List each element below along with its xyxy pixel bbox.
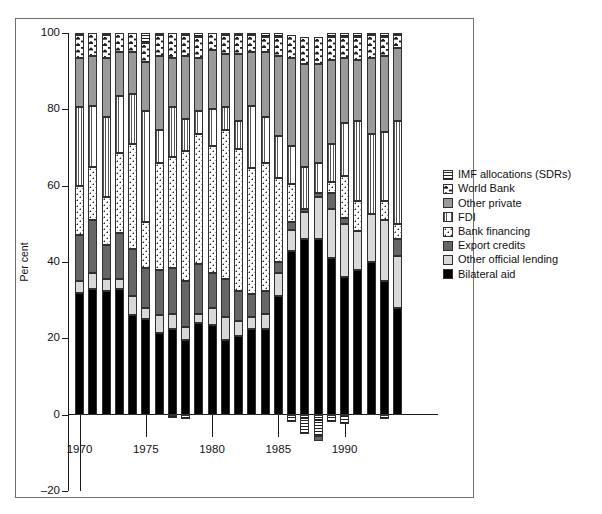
bar-segment-fdi xyxy=(141,111,150,222)
y-axis-tick xyxy=(62,109,68,110)
bar-1971 xyxy=(88,33,97,491)
bar-segment-bilateral xyxy=(221,340,230,414)
bar-segment-bilateral xyxy=(168,329,177,415)
bar-segment-export_credits xyxy=(287,222,296,230)
bar-segment-other_official xyxy=(208,308,217,325)
bar-segment-other_private xyxy=(327,60,336,144)
bar-segment-world_bank xyxy=(340,37,349,58)
bar-segment-bank_financing xyxy=(353,201,362,232)
legend-swatch-icon xyxy=(443,170,453,180)
bar-segment-bank_financing xyxy=(128,144,137,249)
bar-segment-bilateral xyxy=(314,239,323,415)
legend-item-label: Other official lending xyxy=(458,254,558,265)
bar-segment-imf xyxy=(102,33,111,35)
bar-segment-fdi xyxy=(168,107,177,157)
bar-segment-bilateral xyxy=(155,333,164,415)
bar-segment-export_credits xyxy=(234,291,243,322)
bar-segment-bilateral xyxy=(300,239,309,415)
bar-segment-imf xyxy=(274,33,283,37)
bar-segment-other_official xyxy=(367,214,376,262)
bar-segment-world_bank xyxy=(141,43,150,62)
bar-segment-imf xyxy=(221,33,230,35)
bar-segment-imf xyxy=(181,33,190,35)
legend-item: IMF allocations (SDRs) xyxy=(443,168,595,182)
bar-segment-export_credits xyxy=(115,233,124,279)
legend-swatch-icon xyxy=(443,212,453,222)
bar-segment-bank_financing xyxy=(102,197,111,245)
bar-segment-other_private xyxy=(340,58,349,123)
bar-segment-other_official xyxy=(141,308,150,319)
bar-segment-fdi xyxy=(261,117,270,163)
bar-segment-bank_financing xyxy=(340,176,349,218)
bar-segment-other_private xyxy=(102,58,111,117)
bar-1973 xyxy=(115,33,124,491)
bar-segment-other_official xyxy=(234,321,243,336)
bar-segment-world_bank xyxy=(327,37,336,60)
bar-segment-fdi xyxy=(367,134,376,214)
bar-segment-other_official xyxy=(314,197,323,239)
bar-segment-other_private xyxy=(128,52,137,94)
bar-1974 xyxy=(128,33,137,491)
bar-segment-fdi xyxy=(327,144,336,182)
bar-segment-export_credits xyxy=(314,193,323,197)
bar-segment-imf xyxy=(234,33,243,35)
bar-segment-bilateral xyxy=(181,340,190,414)
bar-segment-export_credits xyxy=(274,262,283,273)
bar-segment-other_private xyxy=(88,56,97,106)
bar-segment-imf_negative xyxy=(340,415,349,425)
bar-segment-fdi xyxy=(88,106,97,167)
bar-segment-imf_negative xyxy=(181,415,190,420)
bar-segment-world_bank xyxy=(88,33,97,56)
bar-segment-bilateral xyxy=(393,308,402,415)
bar-segment-other_official xyxy=(194,314,203,324)
bar-segment-other_private xyxy=(300,64,309,167)
legend-item: Bank financing xyxy=(443,225,595,239)
bar-segment-imf_negative xyxy=(300,415,309,434)
bar-segment-fdi xyxy=(353,121,362,201)
bar-segment-fdi xyxy=(380,132,389,201)
bar-segment-other_official xyxy=(221,317,230,340)
bar-segment-export_credits xyxy=(155,270,164,316)
y-axis-tick xyxy=(62,262,68,263)
bar-1992 xyxy=(367,33,376,491)
bar-segment-fdi xyxy=(287,146,296,184)
bar-segment-world_bank xyxy=(353,37,362,60)
bar-segment-imf xyxy=(340,33,349,37)
bar-segment-imf xyxy=(75,33,84,35)
bar-1990 xyxy=(340,33,349,491)
legend-item-label: Bank financing xyxy=(458,226,530,237)
bar-segment-world_bank xyxy=(168,33,177,58)
bar-1986 xyxy=(287,33,296,491)
bar-1984 xyxy=(261,33,270,491)
bar-segment-bilateral xyxy=(141,319,150,414)
bar-segment-export_credits xyxy=(208,273,217,307)
bar-1993 xyxy=(380,33,389,491)
bar-segment-world_bank xyxy=(208,33,217,50)
legend-item: Export credits xyxy=(443,239,595,253)
bar-segment-world_bank xyxy=(115,33,124,52)
bar-segment-bilateral xyxy=(247,329,256,415)
bar-segment-other_private xyxy=(314,64,323,163)
bar-segment-other_official xyxy=(380,220,389,281)
bar-segment-world_bank xyxy=(181,35,190,56)
bar-segment-other_private xyxy=(287,58,296,146)
bar-segment-world_bank xyxy=(221,35,230,54)
bar-segment-other_private xyxy=(274,56,283,136)
bar-1982 xyxy=(234,33,243,491)
y-axis-title: Per cent xyxy=(18,242,30,281)
bar-segment-export_credits xyxy=(327,193,336,208)
y-axis-tick-label: 40 xyxy=(47,256,60,268)
y-axis-tick xyxy=(62,33,68,34)
bar-1972 xyxy=(102,33,111,491)
bar-segment-world_bank xyxy=(367,35,376,58)
bar-segment-export_credits xyxy=(75,235,84,281)
bar-segment-bilateral xyxy=(287,251,296,415)
bar-segment-fdi xyxy=(247,106,256,169)
bar-segment-other_official xyxy=(300,212,309,239)
y-axis-tick-label: 80 xyxy=(47,104,60,116)
bar-segment-export_credits xyxy=(340,218,349,224)
bar-segment-imf_negative xyxy=(327,415,336,423)
bar-segment-fdi xyxy=(234,121,243,150)
bar-segment-bilateral xyxy=(102,291,111,415)
bar-segment-imf_negative xyxy=(168,415,177,418)
